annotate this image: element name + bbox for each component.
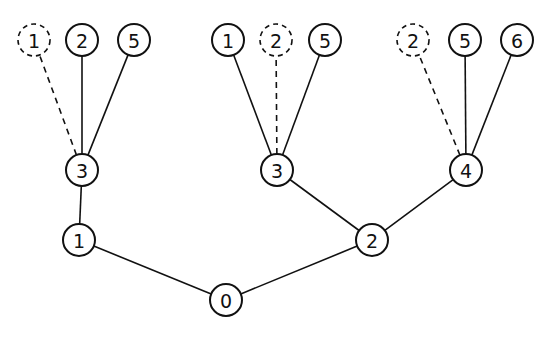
node-c5: 5 bbox=[449, 24, 481, 56]
node-label: 0 bbox=[220, 290, 232, 312]
node-label: 5 bbox=[459, 30, 471, 52]
node-root: 0 bbox=[210, 284, 242, 316]
node-a2: 2 bbox=[66, 24, 98, 56]
edge-root-n1 bbox=[94, 246, 211, 294]
edge-n2-n2_4 bbox=[385, 180, 453, 231]
node-label: 1 bbox=[28, 30, 40, 52]
edge-n2_3-b2 bbox=[276, 56, 277, 154]
edge-n1_3-a5 bbox=[88, 55, 128, 155]
node-label: 3 bbox=[271, 160, 283, 182]
node-label: 3 bbox=[76, 160, 88, 182]
node-b1: 1 bbox=[212, 24, 244, 56]
node-b2: 2 bbox=[260, 24, 292, 56]
edge-n2_3-b1 bbox=[234, 55, 272, 155]
node-n1: 1 bbox=[63, 224, 95, 256]
edge-n1-n1_3 bbox=[80, 186, 82, 224]
node-n2_3: 3 bbox=[261, 154, 293, 186]
node-n2_4: 4 bbox=[450, 154, 482, 186]
node-label: 5 bbox=[319, 30, 331, 52]
tree-diagram: 012334125125256 bbox=[0, 0, 550, 340]
node-n2: 2 bbox=[356, 224, 388, 256]
edge-n1_3-a1 bbox=[40, 55, 77, 155]
node-c6: 6 bbox=[501, 24, 533, 56]
node-n1_3: 3 bbox=[66, 154, 98, 186]
node-c2: 2 bbox=[397, 24, 429, 56]
edge-n2_4-c6 bbox=[472, 55, 511, 155]
nodes-layer: 012334125125256 bbox=[18, 24, 533, 316]
edge-n2_3-b5 bbox=[283, 55, 320, 155]
node-label: 2 bbox=[366, 230, 378, 252]
node-b5: 5 bbox=[309, 24, 341, 56]
node-label: 1 bbox=[73, 230, 85, 252]
node-label: 5 bbox=[128, 30, 140, 52]
edge-n2_4-c2 bbox=[419, 55, 460, 155]
node-label: 2 bbox=[76, 30, 88, 52]
node-label: 4 bbox=[460, 160, 472, 182]
edge-n2-n2_3 bbox=[290, 179, 359, 230]
node-label: 2 bbox=[270, 30, 282, 52]
node-label: 2 bbox=[407, 30, 419, 52]
edge-n2_4-c5 bbox=[465, 56, 466, 154]
node-label: 1 bbox=[222, 30, 234, 52]
node-a1: 1 bbox=[18, 24, 50, 56]
node-a5: 5 bbox=[118, 24, 150, 56]
edge-root-n2 bbox=[241, 246, 357, 294]
node-label: 6 bbox=[511, 30, 523, 52]
